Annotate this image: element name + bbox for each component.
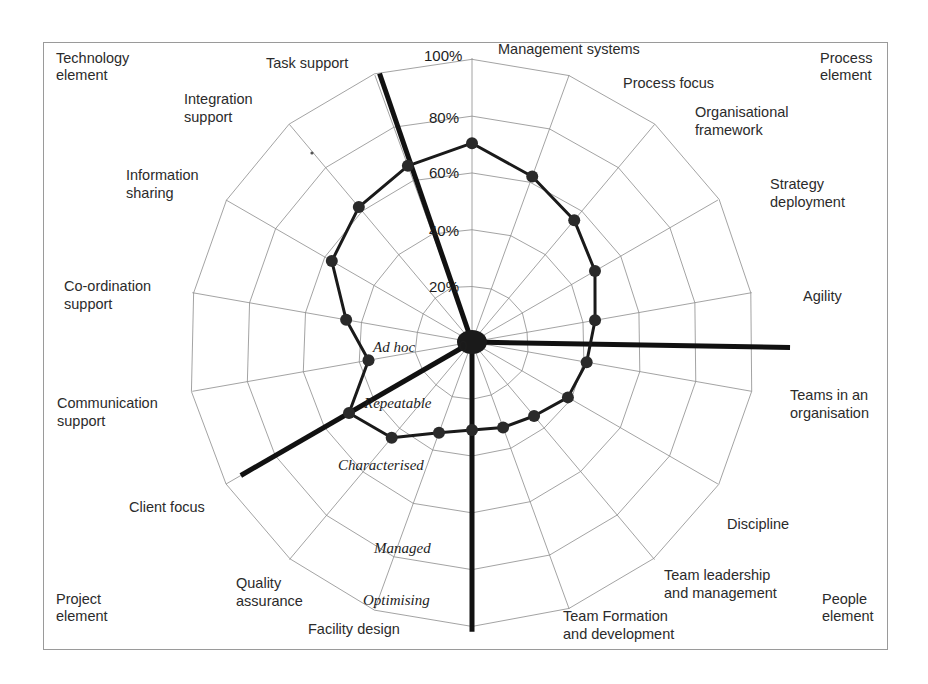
data-point-marker <box>562 391 574 403</box>
data-point-marker <box>433 427 445 439</box>
scan-speck <box>310 151 313 154</box>
maturity-level-label: Repeatable <box>363 395 432 411</box>
axis-label-discipline: Discipline <box>727 516 789 532</box>
axis-label-organisational-framework: Organisational <box>695 104 789 120</box>
radar-spoke <box>472 342 569 609</box>
axis-label-facility-design: Facility design <box>308 621 400 637</box>
data-point-marker <box>589 314 601 326</box>
corner-label-people-line1: People <box>822 591 867 607</box>
axis-label-task-support: Task support <box>266 55 348 71</box>
axis-label-quality-assurance: Quality <box>236 575 282 591</box>
data-point-marker <box>353 201 365 213</box>
axis-label-team-formation-and-development: Team Formation <box>563 608 668 624</box>
data-point-marker <box>343 407 355 419</box>
axis-label-client-focus: Client focus <box>129 499 205 515</box>
data-point-marker <box>326 255 338 267</box>
radial-tick-label: 0 <box>459 337 467 354</box>
axis-label-strategy-deployment: deployment <box>770 194 845 210</box>
axis-label-teams-in-an-organisation: Teams in an <box>790 387 868 403</box>
axis-label-co-ordination-support: support <box>64 296 112 312</box>
maturity-level-labels: Ad hocRepeatableCharacterisedManagedOpti… <box>338 339 432 608</box>
axis-label-agility: Agility <box>803 288 842 304</box>
radial-tick-label: 20% <box>429 278 459 295</box>
axis-label-team-leadership-and-management: Team leadership <box>664 567 770 583</box>
data-point-marker <box>581 356 593 368</box>
maturity-level-label: Optimising <box>363 592 430 608</box>
corner-label-technology-line1: Technology <box>56 50 130 66</box>
radar-chart: 020%40%60%80%100% Ad hocRepeatableCharac… <box>0 0 928 684</box>
radar-spoke <box>472 75 569 342</box>
radial-tick-label: 100% <box>424 47 462 64</box>
axis-label-communication-support: Communication <box>57 395 158 411</box>
axis-label-communication-support: support <box>57 413 105 429</box>
corner-label-people-line2: element <box>822 608 874 624</box>
radar-spoke <box>289 342 472 560</box>
corner-label-project-line1: Project <box>56 591 101 607</box>
radar-spoke <box>375 342 472 609</box>
data-point-marker <box>363 354 375 366</box>
radial-tick-label: 80% <box>429 109 459 126</box>
corner-label-technology-line2: element <box>56 67 108 83</box>
axis-label-information-sharing: sharing <box>126 185 174 201</box>
axis-label-integration-support: Integration <box>184 91 253 107</box>
axis-label-process-focus: Process focus <box>623 75 714 91</box>
axis-label-co-ordination-support: Co-ordination <box>64 278 151 294</box>
axis-label-quality-assurance: assurance <box>236 593 303 609</box>
data-point-marker <box>526 171 538 183</box>
maturity-level-label: Managed <box>373 540 431 556</box>
axis-label-organisational-framework: framework <box>695 122 763 138</box>
group-divider-lines <box>241 73 790 631</box>
element-group-divider <box>472 342 790 348</box>
axis-label-team-leadership-and-management: and management <box>664 585 777 601</box>
radial-tick-label: 60% <box>429 164 459 181</box>
axis-label-management-systems: Management systems <box>498 41 640 57</box>
data-point-marker <box>340 314 352 326</box>
corner-label-process-line1: Process <box>820 50 872 66</box>
data-point-marker <box>528 410 540 422</box>
axis-label-strategy-deployment: Strategy <box>770 176 825 192</box>
maturity-level-label: Ad hoc <box>372 339 415 355</box>
data-point-marker <box>589 265 601 277</box>
maturity-level-label: Characterised <box>338 457 424 473</box>
corner-label-process-line2: element <box>820 67 872 83</box>
data-point-marker <box>386 432 398 444</box>
axis-label-information-sharing: Information <box>126 167 199 183</box>
axis-label-team-formation-and-development: and development <box>563 626 674 642</box>
axis-label-teams-in-an-organisation: organisation <box>790 405 869 421</box>
data-point-marker <box>568 214 580 226</box>
corner-label-project-line2: element <box>56 608 108 624</box>
data-point-marker <box>466 137 478 149</box>
data-point-marker <box>466 424 478 436</box>
data-point-marker <box>402 160 414 172</box>
axis-label-integration-support: support <box>184 109 232 125</box>
radial-tick-label: 40% <box>429 222 459 239</box>
data-point-marker <box>497 421 509 433</box>
